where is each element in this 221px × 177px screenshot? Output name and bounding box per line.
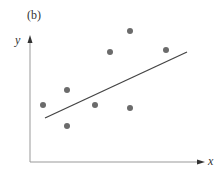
data-points xyxy=(40,28,169,129)
data-point xyxy=(127,28,133,34)
data-point xyxy=(107,49,113,55)
data-point xyxy=(163,47,169,53)
x-axis-arrow-icon xyxy=(197,160,205,165)
y-axis-arrow-icon xyxy=(28,35,33,43)
data-point xyxy=(64,87,70,93)
data-point xyxy=(92,102,98,108)
data-point xyxy=(64,123,70,129)
regression-line xyxy=(45,52,187,118)
axes xyxy=(28,35,206,165)
data-point xyxy=(127,105,133,111)
scatter-plot xyxy=(0,0,221,177)
data-point xyxy=(40,102,46,108)
